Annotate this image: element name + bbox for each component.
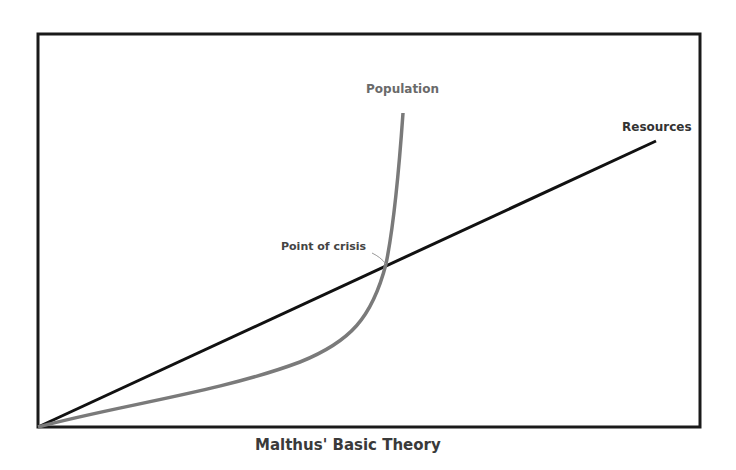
- resources-label: Resources: [622, 120, 692, 134]
- population-curve: [38, 113, 403, 427]
- resources-line: [38, 141, 656, 427]
- chart-canvas: [0, 0, 736, 470]
- chart-title: Malthus' Basic Theory: [255, 436, 441, 454]
- population-label: Population: [366, 82, 439, 96]
- crisis-label: Point of crisis: [281, 240, 366, 253]
- crisis-leader-line: [372, 253, 386, 264]
